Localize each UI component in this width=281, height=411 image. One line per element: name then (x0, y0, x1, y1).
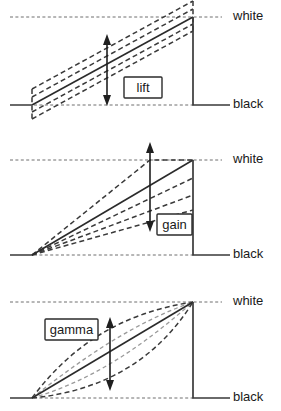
lift-nominal-ramp (32, 17, 193, 105)
gain-label-group[interactable]: gain (157, 214, 192, 235)
gain-label-text: gain (162, 217, 187, 232)
transfer-curve-diagram: lift white black gain (0, 0, 281, 411)
panel-gamma: gamma white black (0, 283, 281, 411)
gamma-label-text: gamma (50, 322, 94, 337)
lift-label-group[interactable]: lift (124, 77, 162, 98)
black-label-gain: black (233, 246, 264, 261)
gamma-label-group[interactable]: gamma (45, 319, 98, 340)
lift-curve-minus-low (32, 24, 193, 112)
lift-label-text: lift (137, 80, 150, 95)
white-label-gamma: white (232, 293, 263, 308)
lift-variation-curves (32, 1, 193, 119)
panel-gain: gain white black (0, 138, 281, 268)
gain-nominal-ramp (32, 160, 193, 255)
black-label-lift: black (233, 96, 264, 111)
white-label-lift: white (232, 8, 263, 23)
gain-signal-frame (10, 160, 230, 255)
panel-lift: lift white black (0, 0, 281, 125)
lift-arrow (103, 34, 111, 106)
white-label-gain: white (232, 151, 263, 166)
black-label-gamma: black (233, 389, 264, 404)
lift-curve-plus-low (32, 9, 193, 97)
